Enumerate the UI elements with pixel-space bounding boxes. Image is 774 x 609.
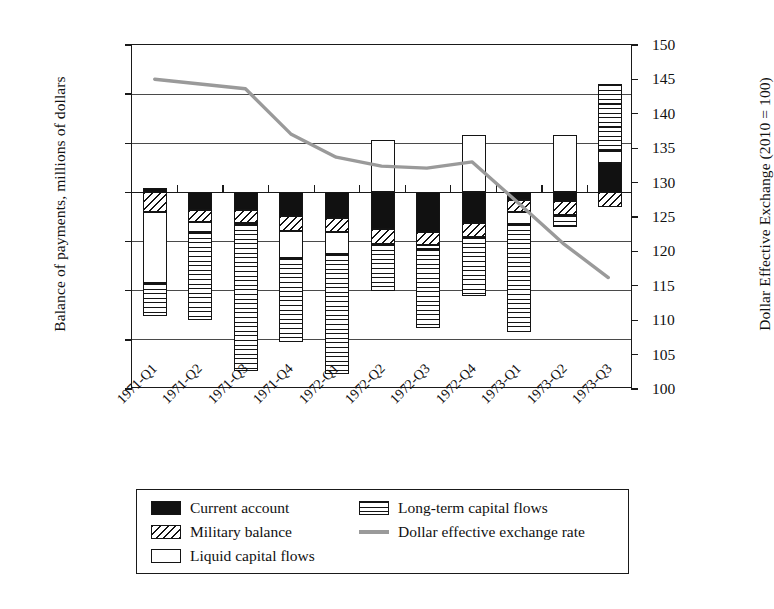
y-tick-label-right: 135 bbox=[652, 140, 712, 156]
y-tick-label-right: 145 bbox=[652, 71, 712, 87]
legend-swatch-line-icon bbox=[359, 530, 389, 534]
y-tick-right bbox=[631, 44, 638, 45]
y-tick-right bbox=[631, 113, 638, 114]
chart-legend: Current accountMilitary balanceLiquid ca… bbox=[136, 489, 629, 574]
y-axis-right-title: Dollar Effective Exchange (2010 = 100) bbox=[756, 39, 774, 369]
legend-swatch-white-icon bbox=[151, 549, 181, 563]
legend-label: Dollar effective exchange rate bbox=[398, 524, 585, 540]
legend-item[interactable]: Long-term capital flows bbox=[359, 500, 548, 516]
y-tick-right bbox=[631, 388, 638, 389]
legend-label: Current account bbox=[190, 500, 289, 516]
y-tick-left bbox=[125, 44, 132, 45]
y-tick-right bbox=[631, 182, 638, 183]
legend-swatch-black-icon bbox=[151, 501, 181, 515]
y-tick-label-right: 130 bbox=[652, 175, 712, 191]
y-tick-right bbox=[631, 285, 638, 286]
y-tick-label-right: 110 bbox=[652, 312, 712, 328]
y-axis-left-title: Balance of payments, millions of dollars bbox=[51, 39, 69, 369]
legend-item[interactable]: Liquid capital flows bbox=[151, 548, 315, 564]
legend-label: Liquid capital flows bbox=[190, 548, 315, 564]
y-tick-label-right: 125 bbox=[652, 209, 712, 225]
y-tick-label-right: 150 bbox=[652, 37, 712, 53]
y-tick-label-right: 140 bbox=[652, 106, 712, 122]
y-tick-left bbox=[125, 143, 132, 144]
y-tick-right bbox=[631, 216, 638, 217]
y-tick-label-right: 100 bbox=[652, 381, 712, 397]
legend-label: Long-term capital flows bbox=[398, 500, 548, 516]
y-tick-left bbox=[125, 93, 132, 94]
legend-swatch-dhatch-icon bbox=[151, 525, 181, 539]
legend-swatch-hlines-icon bbox=[359, 501, 389, 515]
y-tick-left bbox=[125, 241, 132, 242]
y-tick-right bbox=[631, 320, 638, 321]
y-tick-left bbox=[125, 339, 132, 340]
y-tick-label-right: 105 bbox=[652, 347, 712, 363]
plot-area: 6000400020000−2000−4000−6000−8000 150145… bbox=[131, 44, 632, 388]
y-tick-left bbox=[125, 290, 132, 291]
fx-line-series bbox=[132, 45, 631, 387]
y-tick-label-right: 115 bbox=[652, 278, 712, 294]
legend-item[interactable]: Current account bbox=[151, 500, 289, 516]
y-tick-right bbox=[631, 148, 638, 149]
y-tick-label-right: 120 bbox=[652, 243, 712, 259]
legend-label: Military balance bbox=[190, 524, 292, 540]
legend-item[interactable]: Dollar effective exchange rate bbox=[359, 524, 585, 540]
y-tick-left bbox=[125, 192, 132, 193]
y-tick-right bbox=[631, 79, 638, 80]
y-tick-right bbox=[631, 354, 638, 355]
legend-item[interactable]: Military balance bbox=[151, 524, 292, 540]
y-tick-right bbox=[631, 251, 638, 252]
